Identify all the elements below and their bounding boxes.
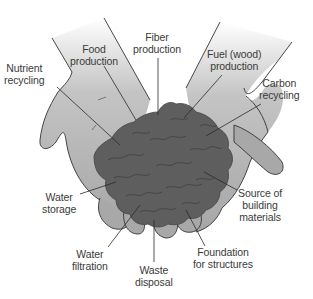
label-water-storage: Water storage: [42, 191, 76, 215]
label-nutrient-recycling: Nutrient recycling: [4, 62, 45, 86]
label-fuel-production: Fuel (wood) production: [207, 48, 261, 72]
label-carbon-recycling: Carbon recycling: [259, 77, 300, 101]
label-fiber-production: Fiber production: [133, 31, 181, 55]
label-source-building-materials: Source of building materials: [238, 187, 282, 223]
soil-services-diagram: Nutrient recycling Food production Fiber…: [0, 0, 313, 299]
label-foundation-structures: Foundation for structures: [193, 246, 253, 270]
label-food-production: Food production: [70, 43, 118, 67]
label-water-filtration: Water filtration: [72, 248, 108, 272]
label-waste-disposal: Waste disposal: [135, 264, 173, 288]
